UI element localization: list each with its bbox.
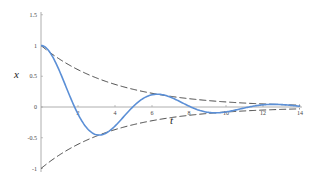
y-tick-label: -0.5	[28, 135, 38, 141]
damped-oscillation-chart: 1.510.50-0.5-1 2468101214 x t	[0, 0, 320, 183]
x-tick-label: 6	[151, 110, 154, 116]
y-tick-label: 0.5	[30, 73, 38, 79]
y-tick-label: 1	[34, 43, 37, 49]
y-tick-label: 1.5	[30, 12, 38, 18]
x-tick-label: 14	[297, 110, 303, 116]
y-tick-label: 0	[34, 104, 37, 110]
upper-envelope-line	[41, 46, 300, 106]
x-axis-label: t	[170, 114, 174, 126]
y-tick-label: -1	[32, 166, 37, 172]
x-tick-label: 4	[114, 110, 117, 116]
x-tick-label: 12	[260, 110, 266, 116]
y-axis-label: x	[13, 68, 19, 80]
axes	[41, 12, 302, 172]
